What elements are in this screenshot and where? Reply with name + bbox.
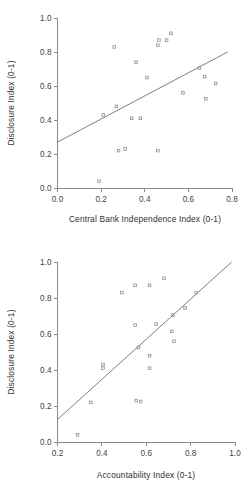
- y-tick-label: 0.0: [40, 184, 52, 193]
- axes-top: [58, 18, 233, 189]
- data-point-marker: [137, 346, 140, 349]
- fit-line-group-bottom: [58, 262, 232, 420]
- data-points-bottom: [76, 277, 197, 436]
- y-tick-label: 0.2: [40, 150, 52, 159]
- data-point-marker: [170, 330, 173, 333]
- data-point-marker: [89, 401, 92, 404]
- scatter-figure-central-bank-independence: 0.00.20.40.60.81.0 0.00.20.40.60.8 Centr…: [0, 0, 245, 246]
- x-ticks-bottom: 0.20.40.60.81.0: [52, 442, 241, 458]
- x-tick-label: 0.4: [96, 449, 108, 458]
- data-point-marker: [163, 277, 166, 280]
- data-point-marker: [76, 434, 79, 437]
- data-point-marker: [102, 363, 105, 366]
- y-tick-label: 0.8: [40, 48, 52, 57]
- data-point-marker: [158, 39, 161, 42]
- x-tick-label: 0.6: [183, 195, 195, 204]
- axes-bottom: [58, 262, 236, 443]
- data-point-marker: [139, 117, 142, 120]
- data-point-marker: [113, 46, 116, 49]
- y-tick-label: 0.2: [40, 402, 52, 411]
- y-tick-label: 0.6: [40, 330, 52, 339]
- data-point-marker: [195, 291, 198, 294]
- data-point-marker: [115, 105, 118, 108]
- y-tick-label: 0.8: [40, 294, 52, 303]
- fit-line-group-top: [58, 52, 228, 142]
- data-point-marker: [146, 76, 149, 79]
- data-point-marker: [148, 367, 151, 370]
- data-point-marker: [214, 82, 217, 85]
- data-point-marker: [134, 324, 137, 327]
- y-tick-label: 1.0: [40, 14, 52, 23]
- y-ticks-top: 0.00.20.40.60.81.0: [40, 14, 57, 193]
- x-ticks-top: 0.00.20.40.60.8: [52, 188, 238, 204]
- y-ticks-bottom: 0.00.20.40.60.81.0: [40, 258, 57, 447]
- data-point-marker: [135, 61, 138, 64]
- x-tick-label: 0.0: [52, 195, 64, 204]
- data-point-marker: [117, 149, 120, 152]
- y-axis-title-bottom: Disclosure Index (0-1): [6, 309, 16, 394]
- data-point-marker: [157, 44, 160, 47]
- y-tick-label: 0.6: [40, 82, 52, 91]
- regression-line: [58, 262, 232, 420]
- data-point-marker: [130, 117, 133, 120]
- x-axis-title-bottom: Accountability Index (0-1): [97, 470, 195, 480]
- x-tick-label: 0.2: [95, 195, 107, 204]
- x-tick-label: 0.6: [141, 449, 153, 458]
- y-tick-label: 0.4: [40, 116, 52, 125]
- regression-line: [58, 52, 228, 142]
- figure-page: 0.00.20.40.60.81.0 0.00.20.40.60.8 Centr…: [0, 0, 245, 492]
- data-point-marker: [148, 354, 151, 357]
- data-point-marker: [148, 284, 151, 287]
- x-tick-label: 1.0: [229, 449, 241, 458]
- plot-svg-top: 0.00.20.40.60.81.0 0.00.20.40.60.8 Centr…: [0, 0, 245, 246]
- x-tick-label: 0.2: [52, 449, 64, 458]
- data-point-marker: [134, 284, 137, 287]
- data-point-marker: [205, 97, 208, 100]
- data-point-marker: [135, 399, 138, 402]
- data-point-marker: [173, 340, 176, 343]
- data-point-marker: [157, 149, 160, 152]
- data-point-marker: [98, 180, 101, 183]
- data-point-marker: [184, 307, 187, 310]
- x-tick-label: 0.4: [139, 195, 151, 204]
- data-point-marker: [102, 367, 105, 370]
- x-tick-label: 0.8: [185, 449, 197, 458]
- x-axis-title-top: Central Bank Independence Index (0-1): [69, 214, 221, 224]
- data-point-marker: [165, 39, 168, 42]
- y-axis-title-top: Disclosure Index (0-1): [6, 60, 16, 145]
- data-point-marker: [102, 114, 105, 117]
- data-point-marker: [121, 291, 124, 294]
- data-point-marker: [139, 400, 142, 403]
- data-point-marker: [155, 323, 158, 326]
- data-point-marker: [124, 148, 127, 151]
- plot-svg-bottom: 0.00.20.40.60.81.0 0.20.40.60.81.0 Accou…: [0, 246, 245, 492]
- y-tick-label: 0.0: [40, 438, 52, 447]
- data-point-marker: [182, 92, 185, 95]
- x-tick-label: 0.8: [226, 195, 238, 204]
- data-point-marker: [198, 67, 201, 70]
- data-point-marker: [203, 75, 206, 78]
- y-tick-label: 0.4: [40, 366, 52, 375]
- data-points-top: [98, 32, 217, 183]
- data-point-marker: [170, 32, 173, 35]
- scatter-figure-accountability: 0.00.20.40.60.81.0 0.20.40.60.81.0 Accou…: [0, 246, 245, 492]
- y-tick-label: 1.0: [40, 258, 52, 267]
